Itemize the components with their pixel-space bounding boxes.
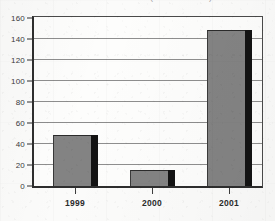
y-axis-tick-mark: [27, 38, 32, 39]
y-axis-tick-mark: [27, 101, 32, 102]
y-axis-ticks: [0, 0, 275, 221]
y-axis-tick-mark: [27, 80, 32, 81]
y-axis-tick-mark: [27, 59, 32, 60]
y-axis-tick-mark: [27, 186, 32, 187]
y-axis-tick-mark: [27, 164, 32, 165]
y-axis-tick-mark: [27, 122, 32, 123]
y-axis-tick-mark: [27, 143, 32, 144]
bar-chart-screenshot: (………………) 020406080100120140160 199920002…: [0, 0, 275, 221]
y-axis-tick-mark: [27, 17, 32, 18]
